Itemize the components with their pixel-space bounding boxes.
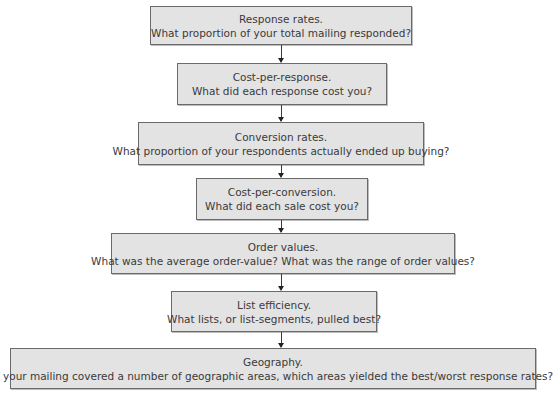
step-list-efficiency: List efficiency. What lists, or list-seg… [171, 291, 377, 332]
step-order-values: Order values. What was the average order… [111, 233, 455, 274]
step-title: Geography. [243, 355, 303, 369]
step-cost-per-conversion: Cost-per-conversion. What did each sale … [196, 178, 368, 220]
arrow-down-icon [281, 274, 282, 290]
step-question: What proportion of your total mailing re… [151, 26, 411, 40]
step-title: Cost-per-response. [233, 70, 332, 84]
step-cost-per-response: Cost-per-response. What did each respons… [177, 63, 387, 105]
step-title: List efficiency. [237, 298, 311, 312]
step-question: What proportion of your respondents actu… [113, 144, 450, 158]
step-title: Order values. [248, 240, 319, 254]
step-question: What did each sale cost you? [205, 199, 359, 213]
arrow-down-icon [281, 165, 282, 177]
step-question: What lists, or list-segments, pulled bes… [167, 312, 381, 326]
step-title: Conversion rates. [235, 130, 327, 144]
step-title: Cost-per-conversion. [228, 185, 336, 199]
step-response-rates: Response rates. What proportion of your … [150, 6, 412, 45]
step-conversion-rates: Conversion rates. What proportion of you… [138, 122, 424, 165]
arrow-down-icon [281, 332, 282, 347]
arrow-down-icon [281, 105, 282, 121]
step-geography: Geography. If your mailing covered a num… [10, 348, 536, 389]
arrow-down-icon [281, 220, 282, 232]
step-question: If your mailing covered a number of geog… [0, 369, 553, 383]
step-question: What was the average order-value? What w… [91, 254, 475, 268]
arrow-down-icon [281, 45, 282, 62]
step-question: What did each response cost you? [192, 84, 372, 98]
step-title: Response rates. [239, 12, 323, 26]
